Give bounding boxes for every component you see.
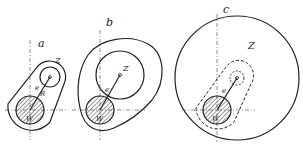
label-z: Z [247,40,256,51]
label-e: e [105,86,109,94]
panel-label: b [106,16,113,29]
panel-label: c [223,3,229,16]
label-e: e [35,84,39,92]
label-z: Z [54,56,61,65]
eccentric-diagram: a Z e R W b Z e W c Z e W [0,0,303,144]
panel-a: a Z e R W [5,37,68,140]
panel-label: a [38,37,45,50]
label-z: Z [122,64,129,73]
label-r: R [39,90,46,98]
panel-b: b Z e W [72,16,162,140]
label-e: e [222,87,226,95]
label-w: W [212,115,220,123]
label-w: W [26,115,34,123]
panel-c: c Z e W [175,3,299,142]
label-w: W [96,115,104,123]
